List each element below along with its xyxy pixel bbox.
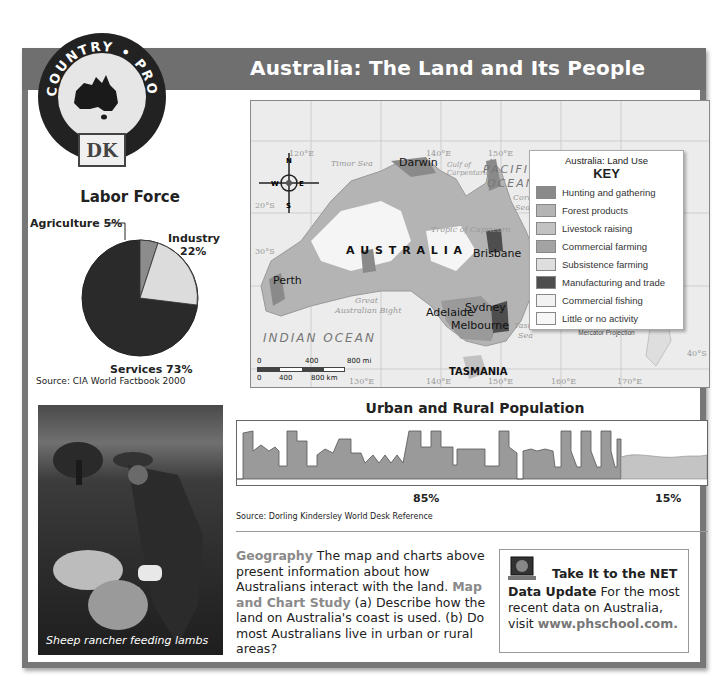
svg-text:S: S <box>286 202 291 210</box>
legend-item: Manufacturing and trade <box>536 273 677 291</box>
legend-item: Commercial fishing <box>536 291 677 309</box>
svg-text:W: W <box>271 180 279 188</box>
gulf-label: Gulf of Carpentaria <box>447 161 487 177</box>
lon-150: 150°E <box>488 149 513 158</box>
industry-pct: 22% <box>180 245 206 258</box>
legend-title: Australia: Land Use <box>536 155 677 166</box>
agriculture-label: Agriculture 5% <box>30 217 122 230</box>
city-melbourne: Melbourne <box>451 319 509 332</box>
bight-label-1: Great <box>355 296 378 305</box>
legend-item: Hunting and gathering <box>536 183 677 201</box>
section-divider <box>236 531 708 532</box>
rural-pct: 15% <box>655 492 681 505</box>
urban-source: Source: Dorling Kindersley World Desk Re… <box>236 512 433 521</box>
legend-item: Livestock raising <box>536 219 677 237</box>
photo-illustration <box>38 405 223 655</box>
timor-sea-label: Timor Sea <box>331 159 373 168</box>
country-label: A U S T R A L I A <box>346 244 463 257</box>
lat-40: 40°S <box>687 349 707 358</box>
lon-140b: 140°E <box>426 377 451 386</box>
tasmania-label: TASMANIA <box>449 366 508 377</box>
tropic-label: Tropic of Capricorn <box>431 225 511 234</box>
lon-130b: 130°E <box>349 377 374 386</box>
bight-label-2: Australian Bight <box>335 306 401 315</box>
services-label: Services 73% <box>110 363 192 376</box>
legend-item: Commercial farming <box>536 237 677 255</box>
urban-rural-chart <box>236 420 708 486</box>
lon-120: 120°E <box>289 149 314 158</box>
svg-text:E: E <box>299 180 304 188</box>
city-sydney: Sydney <box>465 301 506 314</box>
skyline-graphic <box>237 421 707 485</box>
indian-ocean-label: INDIAN OCEAN <box>263 331 376 345</box>
svg-text:N: N <box>286 157 292 165</box>
page-title: Australia: The Land and Its People <box>250 56 645 80</box>
lon-160b: 160°E <box>551 377 576 386</box>
tasman-sea-2: Sea <box>518 331 533 340</box>
urban-pct: 85% <box>413 492 439 505</box>
legend-item: Forest products <box>536 201 677 219</box>
data-update-label: Data Update <box>508 584 597 599</box>
lon-170b: 170°E <box>617 377 642 386</box>
urban-rural-title: Urban and Rural Population <box>240 400 710 416</box>
computer-icon <box>508 556 536 582</box>
lat-30: 30°S <box>255 247 275 256</box>
net-title: Take It to the NET <box>552 566 677 582</box>
city-darwin: Darwin <box>399 156 438 169</box>
take-it-to-the-net-box: Take It to the NET Data Update For the m… <box>499 549 689 653</box>
projection-note: Mercator Projection <box>536 329 677 336</box>
photo-caption: Sheep rancher feeding lambs <box>46 634 208 647</box>
legend-item: Subsistence farming <box>536 255 677 273</box>
industry-label: Industry <box>168 232 220 245</box>
legend-item: Little or no activity <box>536 309 677 327</box>
australia-silhouette-icon <box>58 53 146 141</box>
globe-icon <box>58 53 146 141</box>
lat-20: 20°S <box>255 201 275 210</box>
lon-150b: 150°E <box>488 377 513 386</box>
sheep-rancher-photo <box>38 405 223 655</box>
labor-force-title: Labor Force <box>40 188 220 206</box>
legend-heading: KEY <box>536 166 677 181</box>
city-brisbane: Brisbane <box>473 247 521 260</box>
phschool-link[interactable]: www.phschool.com. <box>538 616 678 631</box>
dk-book-icon: DK <box>78 133 126 167</box>
coral-sea-2: Sea <box>515 203 530 212</box>
labor-source: Source: CIA World Factbook 2000 <box>36 376 185 386</box>
geography-label: Geography <box>236 548 313 563</box>
city-perth: Perth <box>273 274 302 287</box>
map-legend: Australia: Land Use KEY Hunting and gath… <box>529 150 684 330</box>
geography-question: Geography The map and charts above prese… <box>236 548 486 657</box>
